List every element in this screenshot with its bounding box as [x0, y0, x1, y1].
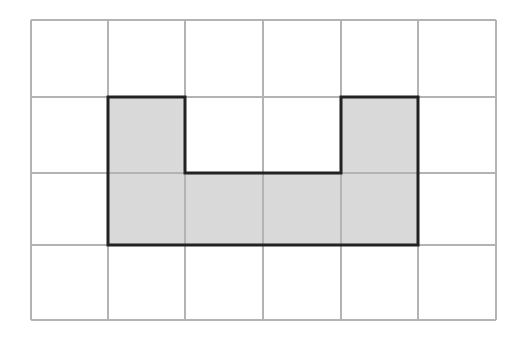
grid-lines [31, 20, 496, 320]
grid-diagram [0, 0, 516, 337]
